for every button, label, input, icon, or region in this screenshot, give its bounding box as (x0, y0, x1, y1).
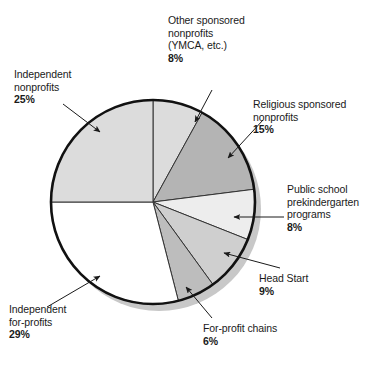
slice-label-line: Other sponsored (168, 14, 245, 27)
slice-percent-value: 8% (287, 221, 359, 234)
slice-label-line: for-profits (9, 316, 66, 329)
slice-percent-value: 15% (253, 123, 346, 136)
slice-label-head-start: Head Start 9% (259, 272, 308, 297)
slice-label-other-sponsored-nonprofits: Other sponsored nonprofits (YMCA, etc.) … (168, 14, 245, 64)
slice-label-public-school-prekindergarten: Public school prekindergarten programs 8… (287, 183, 359, 233)
slice-label-religious-sponsored-nonprofits: Religious sponsored nonprofits 15% (253, 98, 346, 136)
slice-label-line: nonprofits (14, 81, 71, 94)
slice-label-line: nonprofits (253, 111, 346, 124)
slice-label-line: Independent (14, 68, 71, 81)
pie-slice-independent-nonprofits[interactable] (51, 100, 153, 202)
slice-label-independent-nonprofits: Independent nonprofits 25% (14, 68, 71, 106)
slice-label-for-profit-chains: For-profit chains 6% (203, 322, 277, 347)
slice-percent-value: 6% (203, 335, 277, 348)
slice-label-line: For-profit chains (203, 322, 277, 335)
slice-label-line: programs (287, 208, 359, 221)
slice-label-line: Head Start (259, 272, 308, 285)
slice-percent-value: 29% (9, 328, 66, 341)
slice-percent-value: 8% (168, 52, 245, 65)
slice-label-independent-for-profits: Independent for-profits 29% (9, 303, 66, 341)
slice-percent-value: 25% (14, 93, 71, 106)
slice-percent-value: 9% (259, 285, 308, 298)
slice-label-line: Independent (9, 303, 66, 316)
slice-label-line: Public school (287, 183, 359, 196)
slice-label-line: prekindergarten (287, 196, 359, 209)
slice-label-line: (YMCA, etc.) (168, 39, 245, 52)
pie-chart-figure: Other sponsored nonprofits (YMCA, etc.) … (0, 0, 382, 365)
slice-label-line: nonprofits (168, 27, 245, 40)
slice-label-line: Religious sponsored (253, 98, 346, 111)
